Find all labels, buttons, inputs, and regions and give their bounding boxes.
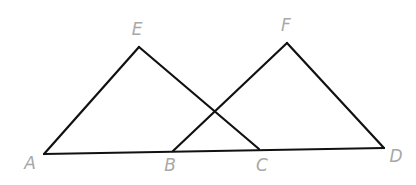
geometry-diagram: E F A B C D	[0, 0, 416, 185]
vertex-label-A: A	[23, 153, 36, 173]
segment-FD	[287, 43, 384, 148]
segment-AE	[44, 47, 139, 154]
vertex-label-D: D	[389, 146, 402, 166]
vertex-label-F: F	[281, 15, 291, 35]
vertex-label-E: E	[132, 19, 143, 39]
triangles-figure: E F A B C D	[0, 0, 416, 185]
vertex-label-B: B	[164, 155, 176, 175]
segment-EC	[139, 47, 259, 149]
segment-BF	[173, 43, 287, 151]
vertex-label-C: C	[256, 155, 268, 175]
segment-AD	[44, 148, 384, 154]
